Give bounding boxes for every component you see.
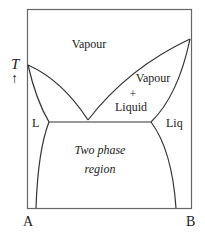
region-vapour-label: Vapour	[72, 38, 107, 50]
region-right-liquid-label: Liq	[166, 117, 183, 129]
region-two-phase-label-1: Two phase	[75, 144, 126, 156]
left-solubility-curve	[36, 122, 49, 208]
region-left-liquid-label: L	[32, 117, 39, 129]
axis-x-left-label: A	[23, 215, 33, 229]
diagram-frame	[28, 10, 192, 209]
region-vapour-liquid-label-2: Liquid	[115, 101, 147, 113]
right-solubility-curve	[151, 122, 176, 208]
region-vapour-liquid-label-1: Vapour	[136, 72, 171, 84]
up-arrow-icon: ↑	[11, 72, 18, 86]
left-bubble-curve	[28, 65, 49, 122]
axis-y-label: T	[11, 57, 19, 72]
axis-x-right-label: B	[186, 215, 195, 229]
left-dew-curve	[28, 65, 88, 120]
region-vapour-liquid-plus: +	[130, 88, 137, 100]
region-two-phase-label-2: region	[85, 163, 116, 175]
